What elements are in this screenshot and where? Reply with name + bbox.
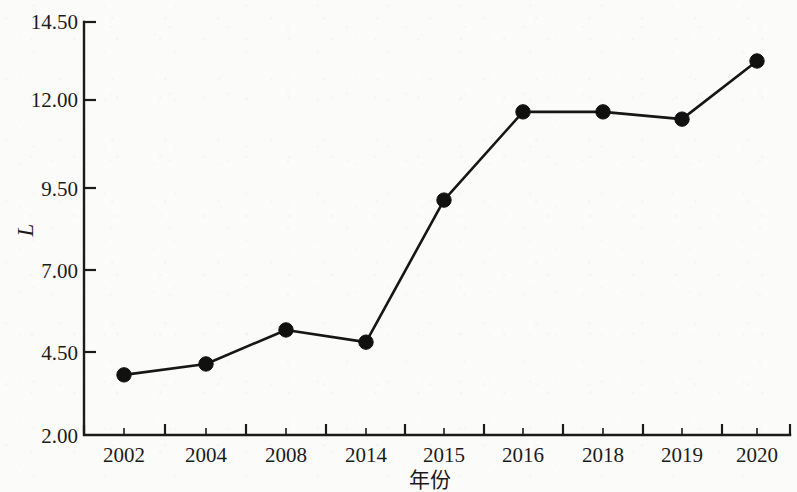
- y-axis-title: L: [13, 224, 38, 238]
- data-series: [117, 54, 764, 382]
- data-point: [675, 112, 689, 126]
- data-point: [516, 105, 530, 119]
- series-line: [124, 61, 757, 375]
- data-point: [117, 368, 131, 382]
- y-tick-label: 9.50: [41, 177, 78, 201]
- data-point: [279, 323, 293, 337]
- y-tick-label: 14.50: [31, 10, 78, 34]
- x-tick-label: 2015: [423, 443, 465, 467]
- series-markers: [117, 54, 764, 382]
- y-tick-label: 12.00: [31, 88, 78, 112]
- line-chart-plot: 14.50 12.00 9.50 7.00 4.50 2.00 L: [0, 0, 797, 492]
- x-axis-tick-labels: 2002 2004 2008 2014 2015 2016 2018 2019 …: [103, 443, 778, 467]
- x-tick-label: 2018: [582, 443, 624, 467]
- x-axis-ticks: [84, 424, 790, 435]
- data-point: [199, 357, 213, 371]
- y-axis-ticks: [84, 22, 96, 352]
- x-axis-title: 年份: [409, 468, 451, 492]
- x-tick-label: 2020: [736, 443, 778, 467]
- data-point: [437, 193, 451, 207]
- axis-lines: [84, 22, 790, 435]
- x-tick-label: 2004: [185, 443, 228, 467]
- y-tick-label: 7.00: [41, 259, 78, 283]
- x-tick-label: 2016: [502, 443, 544, 467]
- data-point: [750, 54, 764, 68]
- data-point: [596, 105, 610, 119]
- x-tick-label: 2008: [265, 443, 307, 467]
- data-point: [359, 335, 373, 349]
- chart-figure: 14.50 12.00 9.50 7.00 4.50 2.00 L: [0, 0, 797, 492]
- x-tick-label: 2002: [103, 443, 145, 467]
- x-tick-label: 2019: [661, 443, 703, 467]
- y-tick-label: 2.00: [41, 424, 78, 448]
- x-tick-label: 2014: [345, 443, 388, 467]
- y-tick-label: 4.50: [41, 341, 78, 365]
